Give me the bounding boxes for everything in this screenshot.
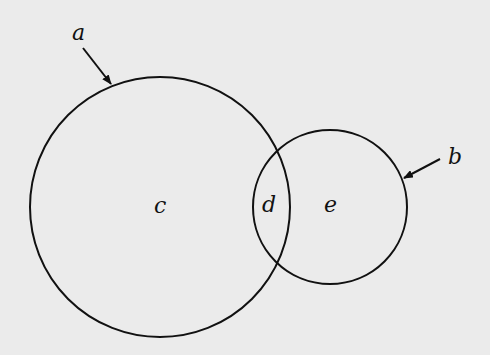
- arrow-a-icon: [83, 48, 111, 84]
- label-d: d: [262, 192, 276, 217]
- label-a: a: [72, 20, 85, 45]
- venn-diagram: a b c d e: [0, 0, 490, 355]
- arrow-b-icon: [404, 159, 440, 178]
- label-e: e: [324, 192, 337, 217]
- label-c: c: [154, 193, 166, 218]
- diagram-svg: a b c d e: [0, 0, 490, 355]
- label-b: b: [448, 144, 462, 169]
